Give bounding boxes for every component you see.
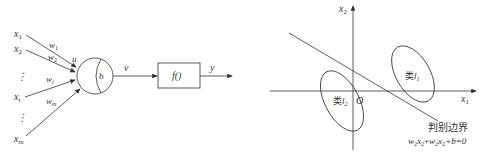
sum-label: u [72, 54, 77, 64]
ellipsis-2: ⋮ [17, 112, 27, 123]
output-label: y [209, 62, 215, 73]
input-label-1: x1 [13, 28, 22, 41]
ellipsis-1: ⋮ [17, 71, 27, 82]
weight-label-1: w1 [49, 40, 58, 51]
input-label-i: xi [13, 91, 20, 104]
input-arrow-m [26, 89, 80, 136]
boundary-title: 判别边界 [428, 122, 468, 133]
boundary-equation: w2x2+w2x2+b=0 [408, 136, 467, 147]
activation-label: f() [172, 70, 182, 82]
bias-label: b [99, 71, 104, 81]
weight-label-i: wi [46, 74, 54, 85]
neuron-circle [77, 58, 113, 94]
figure: x1 x2 ⋮ xi ⋮ xm w1 w2 wi wm u b v f() y … [0, 0, 484, 157]
net-label: v [124, 62, 129, 73]
input-label-m: xm [13, 133, 24, 146]
input-label-2: x2 [13, 43, 22, 56]
class1-label: 类l1 [405, 70, 420, 82]
y-axis-label: x2 [338, 3, 347, 16]
class2-label: 类l2 [333, 95, 348, 107]
diagram-svg: x1 x2 ⋮ xi ⋮ xm w1 w2 wi wm u b v f() y … [0, 0, 484, 157]
x-axis-label: x1 [460, 93, 469, 106]
origin-label: O [356, 95, 363, 106]
weight-label-m: wm [46, 96, 57, 107]
